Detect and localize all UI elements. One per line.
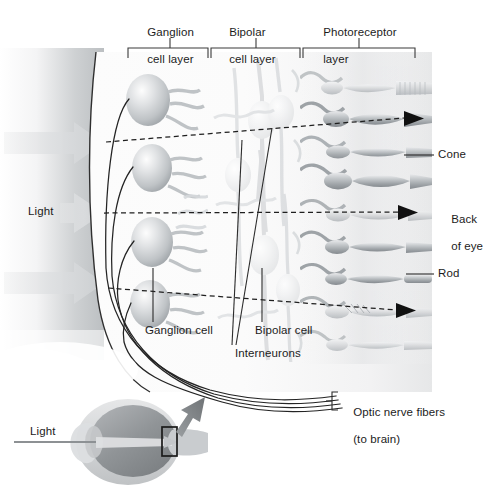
optic-nerve-line2: (to brain) — [353, 433, 400, 445]
bracket-label-ganglion-line1: Ganglion — [147, 26, 194, 38]
bipolar-cell-label: Bipolar cell — [255, 324, 312, 338]
optic-nerve-fibers-label: Optic nerve fibers (to brain) — [340, 392, 445, 460]
retina-diagram-figure: Ganglion cell layer Bipolar cell layer P… — [0, 0, 493, 498]
bracket-label-bipolar-cell-layer: Bipolar cell layer — [216, 12, 276, 80]
bracket-label-photoreceptor-line2: layer — [323, 53, 348, 65]
bracket-label-photoreceptor-layer: Photoreceptor layer — [310, 12, 397, 80]
bracket-label-bipolar-line2: cell layer — [229, 53, 275, 65]
optic-nerve-bracket — [326, 392, 338, 410]
bracket-label-bipolar-line1: Bipolar — [229, 26, 266, 38]
interneurons-label: Interneurons — [235, 347, 301, 361]
bracket-label-photoreceptor-line1: Photoreceptor — [323, 26, 397, 38]
cone-label: Cone — [438, 148, 466, 162]
back-of-eye-label: Back of eye — [438, 199, 483, 267]
light-label: Light — [28, 205, 53, 219]
optic-nerve-line1: Optic nerve fibers — [353, 406, 445, 418]
back-of-eye-line1: Back — [451, 213, 477, 225]
rod-label: Rod — [438, 267, 459, 281]
ganglion-cell-label: Ganglion cell — [145, 324, 213, 338]
bracket-label-ganglion-line2: cell layer — [147, 53, 193, 65]
bracket-label-ganglion-cell-layer: Ganglion cell layer — [134, 12, 194, 80]
inset-light-label: Light — [30, 425, 55, 439]
back-of-eye-line2: of eye — [451, 240, 483, 252]
